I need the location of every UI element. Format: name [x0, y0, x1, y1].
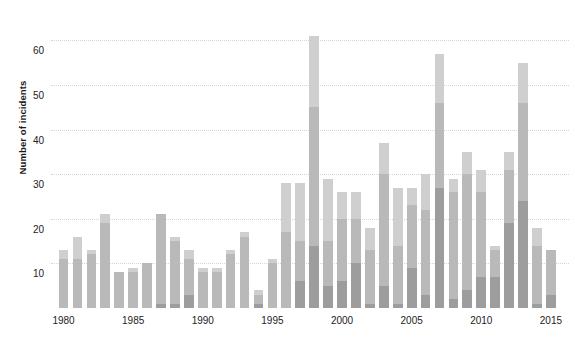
bar-segment-series_3	[295, 183, 305, 241]
bar-segment-series_2	[490, 250, 500, 277]
bar-segment-series_1	[532, 304, 542, 308]
bar-segment-series_2	[462, 174, 472, 290]
bar-segment-series_2	[170, 241, 180, 303]
x-tick-label-1995: 1995	[261, 315, 283, 326]
bar	[198, 268, 208, 308]
bar	[476, 170, 486, 308]
bar	[281, 183, 291, 308]
bar-segment-series_2	[435, 103, 445, 188]
bar-segment-series_2	[254, 295, 264, 304]
bar	[142, 263, 152, 308]
bar-segment-series_3	[323, 179, 333, 241]
bar-segment-series_2	[198, 272, 208, 308]
bar-segment-series_3	[100, 214, 110, 223]
x-tick-label-2010: 2010	[470, 315, 492, 326]
bar-segment-series_2	[128, 272, 138, 308]
bar	[337, 192, 347, 308]
bar-segment-series_1	[254, 304, 264, 308]
bar-segment-series_2	[100, 223, 110, 308]
bar	[421, 174, 431, 308]
y-tick-label-40: 40	[33, 134, 44, 145]
x-tick-label-2015: 2015	[540, 315, 562, 326]
bar-segment-series_2	[295, 241, 305, 281]
bar-segment-series_2	[518, 103, 528, 201]
bar-segment-series_1	[351, 263, 361, 308]
bar-segment-series_3	[407, 188, 417, 206]
bar	[226, 250, 236, 308]
bar	[87, 250, 97, 308]
bar-segment-series_2	[476, 192, 486, 277]
bar-segment-series_1	[379, 286, 389, 308]
bar-segment-series_2	[114, 272, 124, 308]
bar	[518, 63, 528, 308]
bar-segment-series_3	[337, 192, 347, 219]
bar	[73, 237, 83, 308]
bar-segment-series_3	[504, 152, 514, 170]
bar-segment-series_2	[407, 205, 417, 267]
bar-segment-series_1	[337, 281, 347, 308]
bar-segment-series_3	[421, 174, 431, 210]
bar-segment-series_2	[365, 250, 375, 304]
bar	[268, 259, 278, 308]
x-tick-label-1990: 1990	[192, 315, 214, 326]
bar-segment-series_2	[156, 214, 166, 303]
bar	[184, 250, 194, 308]
bar	[546, 250, 556, 308]
bar-segment-series_1	[393, 304, 403, 308]
bar	[156, 214, 166, 308]
bar-segment-series_2	[449, 192, 459, 299]
y-axis-title: Number of incidents	[17, 58, 28, 198]
bar	[504, 152, 514, 308]
bar	[490, 246, 500, 308]
y-tick-label-60: 60	[33, 45, 44, 56]
bar	[449, 179, 459, 308]
bar-segment-series_2	[281, 232, 291, 308]
bar-segment-series_2	[379, 174, 389, 286]
bar	[323, 179, 333, 308]
bar	[295, 183, 305, 308]
bars-layer	[51, 18, 569, 308]
y-tick-label-50: 50	[33, 89, 44, 100]
bar-segment-series_1	[323, 286, 333, 308]
bar-segment-series_3	[281, 183, 291, 232]
bar-segment-series_2	[337, 219, 347, 281]
bar	[407, 188, 417, 308]
bar-segment-series_1	[295, 281, 305, 308]
bar-segment-series_3	[351, 192, 361, 219]
x-tick-label-2000: 2000	[331, 315, 353, 326]
bar-segment-series_2	[184, 259, 194, 295]
bar	[59, 250, 69, 308]
bar	[309, 36, 319, 308]
bar-segment-series_1	[504, 223, 514, 308]
bar-segment-series_1	[407, 268, 417, 308]
bar-segment-series_3	[435, 54, 445, 103]
bar-segment-series_1	[546, 295, 556, 308]
bar-segment-series_3	[476, 170, 486, 192]
bar	[532, 228, 542, 308]
bar-segment-series_2	[240, 237, 250, 308]
bar-segment-series_2	[212, 272, 222, 308]
bar-segment-series_3	[309, 36, 319, 107]
bar	[240, 232, 250, 308]
x-axis-ticks: 19801985199019952000200520102015	[51, 311, 569, 341]
bar-segment-series_1	[309, 246, 319, 308]
bar	[100, 214, 110, 308]
bar-segment-series_2	[504, 170, 514, 224]
bar	[212, 268, 222, 308]
bar-segment-series_1	[184, 295, 194, 308]
plot-area: 102030405060	[51, 18, 569, 308]
bar-segment-series_1	[170, 304, 180, 308]
bar	[114, 272, 124, 308]
bar	[128, 268, 138, 308]
bar-segment-series_1	[462, 290, 472, 308]
bar	[351, 192, 361, 308]
bar-segment-series_3	[449, 179, 459, 192]
bar-segment-series_2	[59, 259, 69, 308]
bar-segment-series_2	[351, 219, 361, 264]
bar-segment-series_2	[309, 107, 319, 245]
bar	[435, 54, 445, 308]
bar-segment-series_2	[546, 250, 556, 295]
bar-segment-series_3	[393, 188, 403, 246]
bar-segment-series_1	[435, 188, 445, 308]
bar-segment-series_2	[142, 263, 152, 308]
